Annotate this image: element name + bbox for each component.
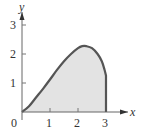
- y-tick-label-3: 3: [10, 18, 16, 32]
- x-axis-label: x: [129, 105, 136, 119]
- origin-label: 0: [11, 116, 17, 130]
- x-tick-label-1: 1: [46, 116, 52, 130]
- y-axis-label: y: [18, 0, 25, 14]
- x-axis-arrow-icon: [120, 110, 128, 115]
- x-tick-label-2: 2: [74, 116, 80, 130]
- shaded-area: [22, 46, 106, 112]
- y-tick-label-1: 1: [10, 76, 16, 90]
- x-tick-label-3: 3: [102, 116, 108, 130]
- chart: 0 1 2 3 1 2 3 y x: [0, 0, 141, 140]
- plot-area: [22, 46, 106, 112]
- y-tick-label-2: 2: [10, 47, 16, 61]
